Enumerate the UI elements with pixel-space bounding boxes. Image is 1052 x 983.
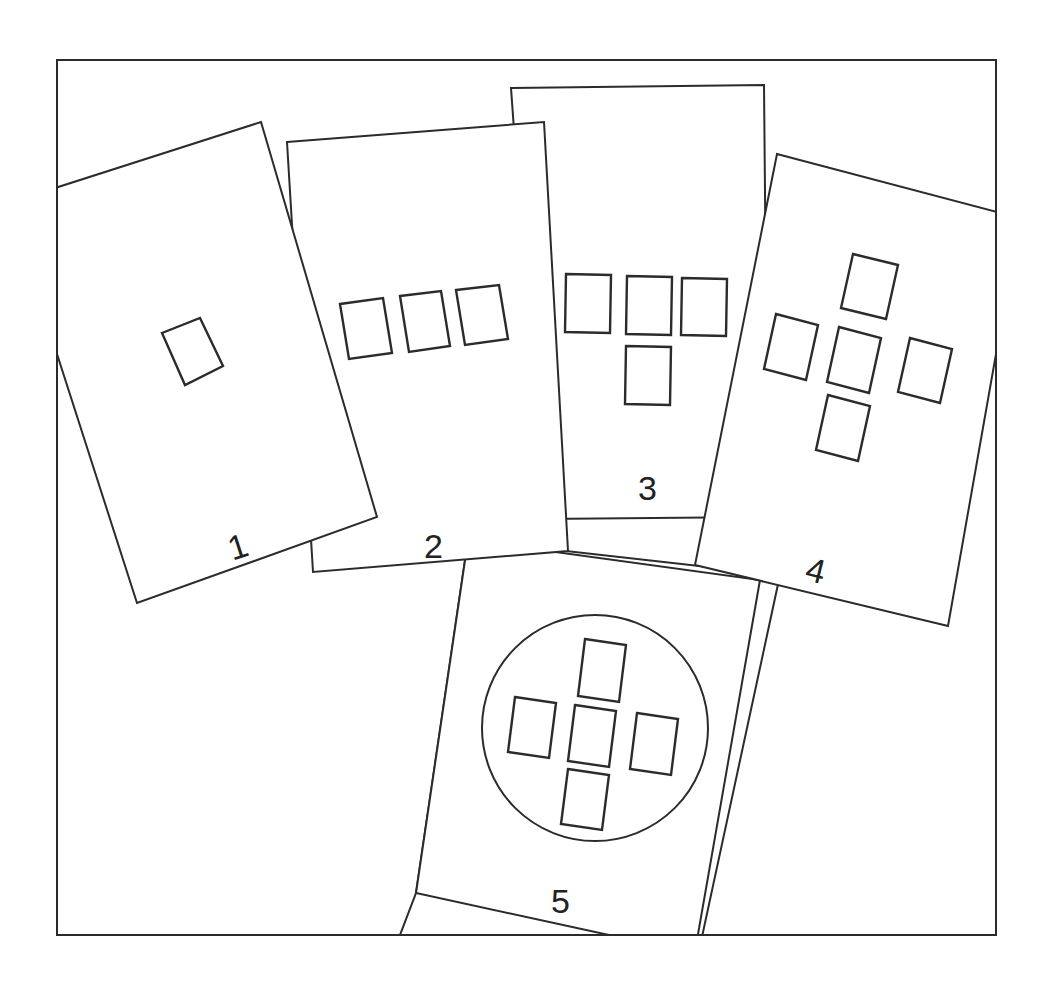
card-2-label: 2 xyxy=(424,527,443,565)
card-3-label: 3 xyxy=(638,469,657,507)
cards-diagram: 3 5 4 xyxy=(0,0,1052,983)
card-5-label: 5 xyxy=(551,882,570,920)
